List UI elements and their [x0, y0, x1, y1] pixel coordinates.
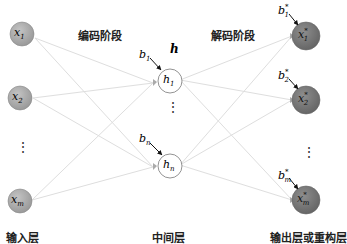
- input-ellipsis: ⋮: [16, 140, 30, 154]
- bias-arrow-bn: [150, 143, 162, 155]
- encoder-edges: [32, 38, 153, 200]
- input-nodes: [8, 22, 34, 213]
- output-xm-label: x*m: [297, 191, 309, 207]
- output-ellipsis: ⋮: [302, 145, 316, 159]
- encode-stage-label: 编码阶段: [78, 27, 122, 43]
- bias-arrow-b1: [150, 58, 161, 70]
- input-x1-label: x1: [14, 26, 25, 41]
- bias-arrow-b2-out: [289, 79, 298, 89]
- input-layer-label: 输入层: [6, 229, 39, 244]
- bias-bn-label: bn: [139, 132, 151, 147]
- hidden-layer-symbol: h: [170, 42, 179, 56]
- hidden-ellipsis: ⋮: [166, 100, 180, 114]
- decoder-edges: [180, 36, 292, 200]
- bias-b1-label: b1: [139, 48, 151, 63]
- output-layer-label: 输出层或重构层: [270, 229, 347, 244]
- bias-arrow-b1-out: [289, 14, 298, 25]
- bias-b2-out-label: b*2: [278, 68, 289, 84]
- bias-bm-out-label: b*m: [278, 168, 291, 184]
- input-xm-label: xm: [11, 193, 24, 208]
- input-x2-label: x2: [12, 90, 23, 105]
- output-x2-label: x*2: [298, 91, 308, 107]
- bias-b1-out-label: b*1: [278, 3, 289, 19]
- decode-stage-label: 解码阶段: [211, 27, 255, 43]
- hidden-layer-label: 中间层: [152, 229, 185, 244]
- hidden-hn-label: hn: [163, 158, 175, 173]
- output-nodes: [292, 22, 320, 214]
- hidden-h1-label: h1: [163, 73, 175, 88]
- output-x1-label: x*1: [298, 27, 308, 43]
